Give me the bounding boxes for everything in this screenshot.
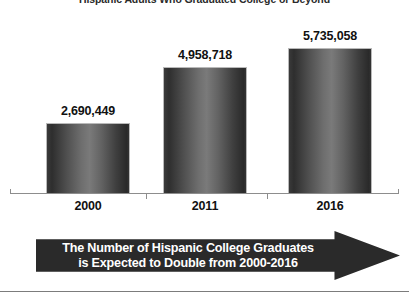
x-axis-label-2000: 2000 [46,199,130,213]
x-axis-tick-1 [146,193,147,199]
x-axis-tick-2 [267,193,268,199]
bar-value-label: 4,958,718 [178,48,232,62]
x-axis-label-2016: 2016 [288,199,372,213]
bottom-divider [0,291,409,292]
callout-banner-text: The Number of Hispanic College Graduates… [42,241,334,271]
callout-line-1: The Number of Hispanic College Graduates [42,241,334,256]
bar-group-2016: 5,735,058 [288,48,372,194]
callout-banner: The Number of Hispanic College Graduates… [36,231,400,280]
x-axis-right-cap [398,189,399,194]
bar-value-label: 5,735,058 [303,29,357,43]
bar-rect [288,48,372,194]
bar-rect [163,67,247,194]
x-axis-left-cap [10,189,11,194]
chart-plot-area: 2,690,449 4,958,718 5,735,058 [0,14,409,194]
bar-group-2000: 2,690,449 [46,123,130,194]
chart-title: Hispanic Adults Who Graduated College or… [0,0,409,5]
bar-rect [46,123,130,194]
x-axis-label-2011: 2011 [163,199,247,213]
bar-group-2011: 4,958,718 [163,67,247,194]
bar-value-label: 2,690,449 [61,104,115,118]
x-axis-line [10,193,399,194]
callout-line-2: is Expected to Double from 2000-2016 [42,256,334,271]
